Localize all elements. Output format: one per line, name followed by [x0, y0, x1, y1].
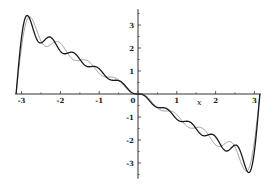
chart-axes: -3-2-10123 -3-2-1123 x [15, 9, 261, 179]
x-tick-label: -3 [18, 96, 26, 105]
x-tick-label: 3 [252, 96, 257, 105]
y-tick-label: -1 [126, 113, 134, 122]
x-tick-label: 2 [213, 96, 218, 105]
x-tick-label: -1 [95, 96, 103, 105]
y-tick-label: 1 [129, 67, 134, 76]
y-tick-label: -3 [126, 159, 134, 168]
y-tick-label: -2 [126, 136, 134, 145]
fourier-chart: -3-2-10123 -3-2-1123 x [0, 0, 273, 186]
y-tick-label: 2 [129, 44, 134, 53]
x-tick-label: -2 [57, 96, 65, 105]
y-tick-label: 3 [129, 21, 134, 30]
x-tick-label: 1 [174, 96, 179, 105]
x-axis-label: x [197, 98, 202, 107]
x-ticks: -3-2-10123 [18, 91, 257, 105]
x-tick-label: 0 [131, 96, 136, 105]
